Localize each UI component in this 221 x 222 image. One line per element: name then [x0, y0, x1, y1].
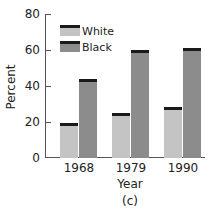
- x-tick-label: 1990: [163, 162, 203, 174]
- y-tick-60: [45, 50, 51, 51]
- y-tick-label: 20: [20, 116, 40, 128]
- y-tick-80: [45, 14, 51, 15]
- legend-swatch-white: [60, 25, 80, 36]
- x-axis-label: Year: [110, 178, 150, 190]
- caption: (c): [110, 195, 150, 207]
- chart: 80 60 40 20 0 Percent 1968 1979 1990 Yea…: [0, 0, 221, 222]
- x-tick-label: 1979: [111, 162, 151, 174]
- x-tick-label: 1968: [59, 162, 99, 174]
- bar-white-1968: [60, 123, 78, 158]
- bar-white-1979: [112, 113, 130, 158]
- y-tick-label: 60: [20, 44, 40, 56]
- bar-white-1990: [164, 107, 182, 158]
- y-tick-40: [45, 86, 51, 87]
- y-tick-label: 40: [20, 80, 40, 92]
- legend-label-black: Black: [82, 42, 112, 54]
- bar-black-1968: [79, 79, 97, 158]
- bar-black-1990: [183, 48, 201, 158]
- legend-label-white: White: [82, 26, 114, 38]
- y-tick-label: 0: [20, 152, 40, 164]
- bar-black-1979: [131, 50, 149, 158]
- legend-swatch-black: [60, 41, 80, 52]
- legend: White Black: [60, 25, 120, 55]
- y-tick-label: 80: [20, 8, 40, 20]
- y-tick-20: [45, 122, 51, 123]
- y-axis-label: Percent: [4, 62, 18, 112]
